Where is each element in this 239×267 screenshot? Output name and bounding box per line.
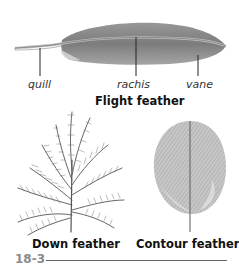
down-feather-title: Down feather bbox=[32, 237, 120, 251]
quill-label: quill bbox=[28, 78, 51, 91]
figure-rule bbox=[46, 260, 227, 261]
figure-number: 18-3 bbox=[15, 252, 45, 266]
vane-label: vane bbox=[186, 78, 213, 91]
feather-illustrations bbox=[0, 0, 239, 267]
flight-feather-title: Flight feather bbox=[95, 94, 184, 108]
contour-feather-drawing bbox=[154, 121, 226, 232]
rachis-label: rachis bbox=[117, 78, 150, 91]
down-feather-drawing bbox=[18, 112, 124, 235]
contour-feather-title: Contour feather bbox=[136, 237, 239, 251]
flight-feather-drawing bbox=[15, 23, 226, 65]
